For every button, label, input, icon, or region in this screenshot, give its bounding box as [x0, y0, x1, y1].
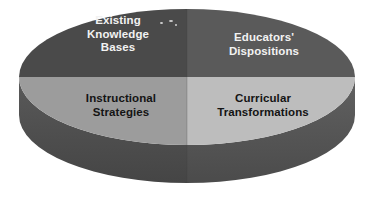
diagram-canvas: Existing Knowledge Bases Educators' Disp…: [0, 0, 373, 222]
cylinder-diagram-graphic: [0, 0, 373, 222]
quadrant-educators-dispositions[interactable]: [187, 0, 373, 77]
quadrant-existing-knowledge-bases[interactable]: [0, 0, 187, 77]
